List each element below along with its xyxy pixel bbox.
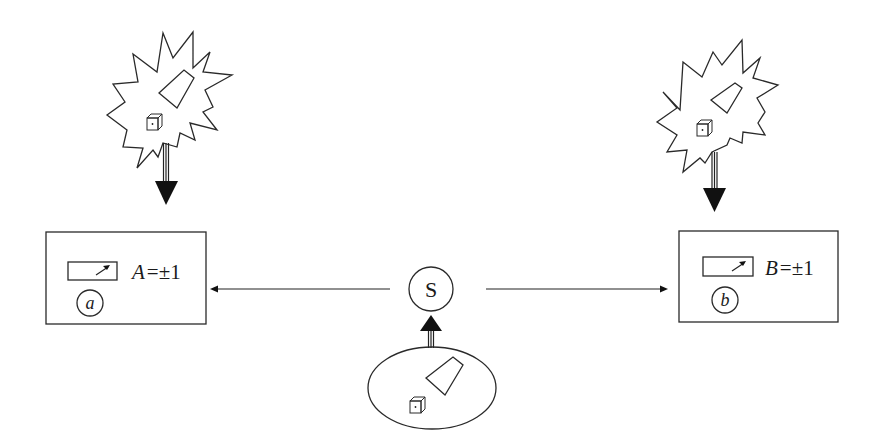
ellipse-shape bbox=[368, 347, 496, 429]
outcome-label-b: B=±1 bbox=[765, 256, 814, 280]
diagram-canvas: A=±1 a B=±1 b S bbox=[0, 0, 879, 447]
detector-a: A=±1 a bbox=[46, 232, 206, 324]
setting-label-b: b bbox=[721, 290, 730, 310]
source-label: S bbox=[425, 277, 437, 302]
die-icon bbox=[147, 114, 162, 130]
outcome-label-a: A=±1 bbox=[130, 260, 181, 284]
starburst-left bbox=[107, 32, 232, 168]
arrow-s-to-a bbox=[210, 286, 390, 293]
detector-b: B=±1 b bbox=[679, 231, 838, 322]
trapezoid-object-icon bbox=[159, 70, 194, 108]
meter-icon bbox=[68, 262, 117, 280]
setting-label-a: a bbox=[86, 293, 95, 313]
source-origin-ellipse bbox=[368, 347, 496, 429]
die-icon bbox=[697, 120, 712, 136]
detector-a-box bbox=[46, 232, 206, 324]
starburst-shape-left bbox=[107, 32, 232, 168]
source-s: S bbox=[409, 267, 453, 311]
meter-icon bbox=[703, 257, 753, 276]
arrow-down-left bbox=[155, 143, 178, 205]
trapezoid-object-icon bbox=[711, 83, 742, 113]
trapezoid-object-icon bbox=[426, 357, 463, 395]
arrow-up-to-source bbox=[420, 315, 442, 348]
arrow-s-to-b bbox=[486, 286, 668, 293]
die-icon bbox=[410, 397, 425, 413]
